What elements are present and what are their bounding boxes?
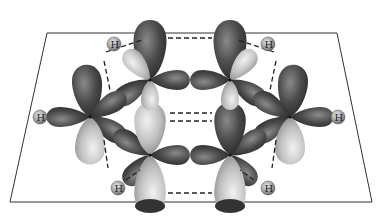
cc-sigma-orbitals xyxy=(85,70,296,165)
hydrogen-label: H xyxy=(265,183,274,194)
hydrogen-label: H xyxy=(111,39,120,50)
diagram-canvas: H H H H H H xyxy=(0,0,383,220)
hydrogen-atom: H xyxy=(261,37,275,51)
hydrogen-atom: H xyxy=(33,110,47,124)
benzene-orbital-diagram: H H H H H H xyxy=(0,0,383,220)
hydrogen-atom: H xyxy=(111,181,125,195)
hydrogen-atom: H xyxy=(261,181,275,195)
hydrogen-label: H xyxy=(265,39,274,50)
hydrogen-atom: H xyxy=(107,37,121,51)
hydrogen-label: H xyxy=(335,112,344,123)
hydrogen-label: H xyxy=(115,183,124,194)
hydrogen-label: H xyxy=(37,112,46,123)
hydrogen-atom: H xyxy=(331,110,345,124)
